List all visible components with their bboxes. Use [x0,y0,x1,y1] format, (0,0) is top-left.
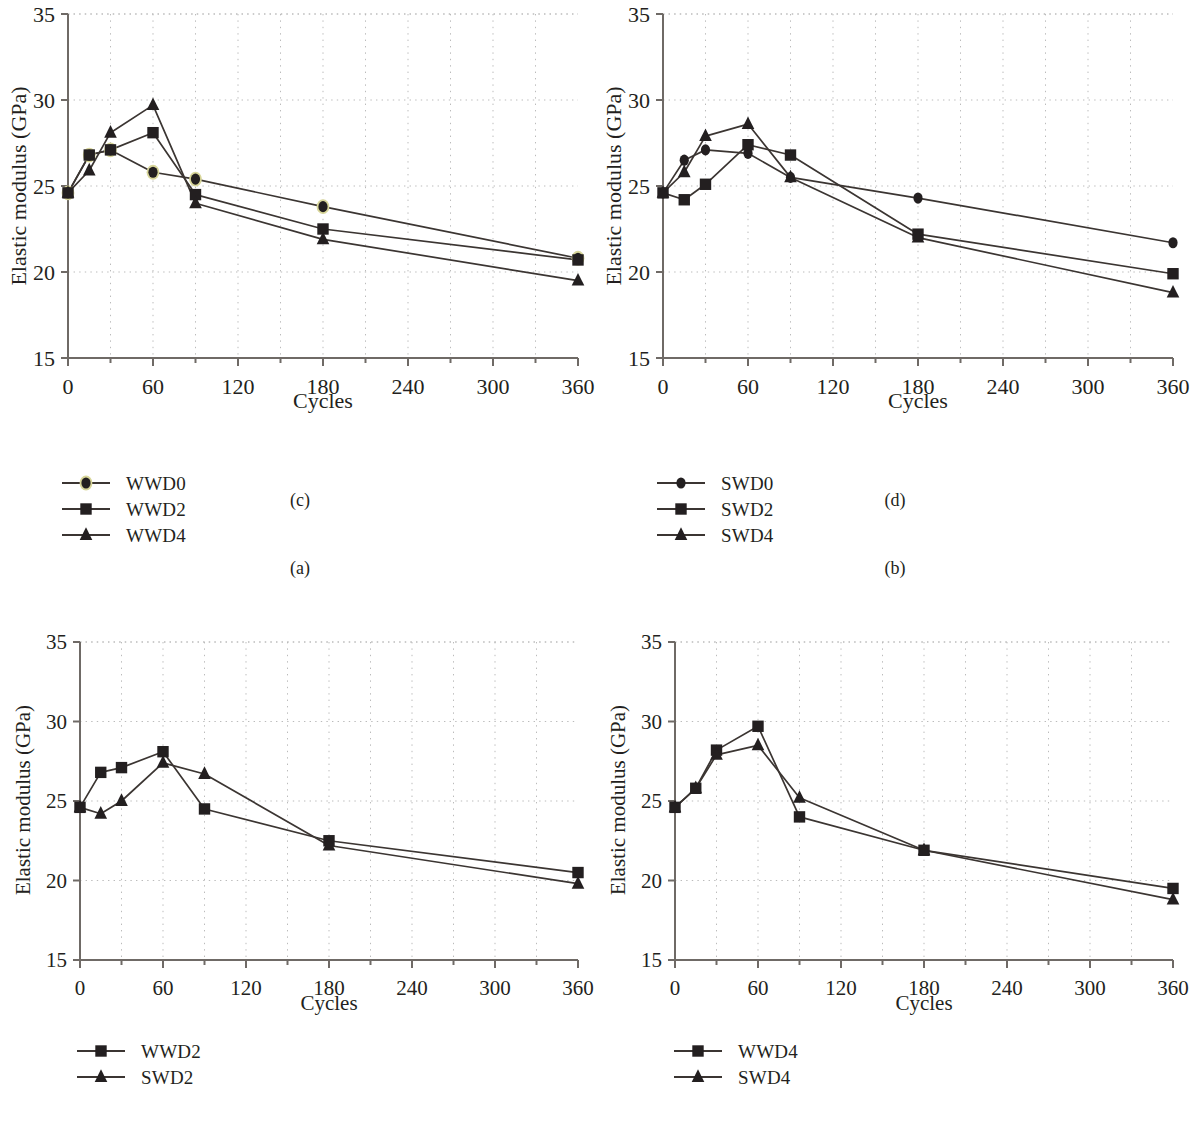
chart-c-plot: 1520253035060120180240300360CyclesElasti… [0,600,595,1030]
svg-text:30: 30 [641,710,662,734]
circle-marker-icon [655,473,707,493]
legend-label: SWD4 [738,1068,791,1087]
legend-item-swd2[interactable]: SWD2 [75,1064,201,1090]
svg-text:60: 60 [748,976,769,1000]
legend-label: SWD0 [721,474,774,493]
circle-marker-icon [60,473,112,493]
legend-label: WWD2 [126,500,186,519]
svg-text:240: 240 [396,976,428,1000]
svg-text:240: 240 [392,374,425,399]
svg-text:360: 360 [1157,374,1190,399]
svg-text:35: 35 [46,630,67,654]
square-marker-icon [75,1041,127,1061]
triangle-marker-icon [655,525,707,545]
svg-text:300: 300 [479,976,511,1000]
legend-label: WWD0 [126,474,186,493]
legend-item-wwd4[interactable]: WWD4 [672,1038,798,1064]
svg-text:0: 0 [63,374,74,399]
chart-d-legend: WWD4SWD4 [672,1038,798,1090]
svg-text:240: 240 [987,374,1020,399]
svg-text:300: 300 [1074,976,1106,1000]
square-marker-icon [655,499,707,519]
svg-text:60: 60 [737,374,759,399]
square-marker-icon [672,1041,724,1061]
svg-text:30: 30 [628,88,650,113]
svg-text:360: 360 [562,976,594,1000]
chart-c-caption: (c) [240,490,360,511]
legend-item-wwd4[interactable]: WWD4 [60,522,186,548]
legend-label: SWD2 [141,1068,194,1087]
legend-label: WWD4 [738,1042,798,1061]
figure-elastic-modulus-cycles: 1520253035060120180240300360CyclesElasti… [0,0,1190,1132]
svg-text:300: 300 [477,374,510,399]
legend-item-wwd0[interactable]: WWD0 [60,470,186,496]
legend-label: SWD2 [721,500,774,519]
svg-text:0: 0 [670,976,681,1000]
chart-a-plot: 1520253035060120180240300360CyclesElasti… [0,0,595,430]
legend-item-wwd2[interactable]: WWD2 [60,496,186,522]
svg-text:Elastic modulus (GPa): Elastic modulus (GPa) [601,86,626,285]
legend-item-swd2[interactable]: SWD2 [655,496,774,522]
triangle-marker-icon [672,1067,724,1087]
chart-a-caption: (a) [240,558,360,579]
svg-text:20: 20 [628,260,650,285]
legend-label: WWD2 [141,1042,201,1061]
legend-item-swd0[interactable]: SWD0 [655,470,774,496]
svg-text:0: 0 [658,374,669,399]
square-marker-icon [60,499,112,519]
svg-text:25: 25 [628,174,650,199]
svg-text:0: 0 [75,976,86,1000]
chart-d-svg: 1520253035060120180240300360CyclesElasti… [595,600,1190,1030]
svg-text:60: 60 [153,976,174,1000]
svg-text:30: 30 [33,88,55,113]
svg-text:360: 360 [1157,976,1189,1000]
legend-item-swd4[interactable]: SWD4 [672,1064,798,1090]
svg-text:20: 20 [46,869,67,893]
legend-label: WWD4 [126,526,186,545]
svg-text:20: 20 [33,260,55,285]
chart-b-caption: (b) [835,558,955,579]
svg-text:60: 60 [142,374,164,399]
svg-text:35: 35 [628,2,650,27]
legend-item-wwd2[interactable]: WWD2 [75,1038,201,1064]
svg-text:360: 360 [562,374,595,399]
svg-text:25: 25 [641,789,662,813]
svg-text:Elastic modulus (GPa): Elastic modulus (GPa) [606,705,630,895]
svg-text:30: 30 [46,710,67,734]
chart-c-legend: WWD2SWD2 [75,1038,201,1090]
svg-text:25: 25 [46,789,67,813]
svg-text:15: 15 [46,948,67,972]
svg-text:20: 20 [641,869,662,893]
chart-b-legend: SWD0SWD2SWD4 [655,470,774,548]
svg-text:120: 120 [817,374,850,399]
chart-a-svg: 1520253035060120180240300360CyclesElasti… [0,0,595,430]
legend-label: SWD4 [721,526,774,545]
svg-text:35: 35 [641,630,662,654]
svg-text:35: 35 [33,2,55,27]
chart-b-svg: 1520253035060120180240300360CyclesElasti… [595,0,1190,430]
svg-text:300: 300 [1072,374,1105,399]
chart-b-plot: 1520253035060120180240300360CyclesElasti… [595,0,1190,430]
chart-d-caption: (d) [835,490,955,511]
svg-text:120: 120 [222,374,255,399]
svg-text:240: 240 [991,976,1023,1000]
svg-text:Cycles: Cycles [895,991,952,1015]
svg-text:120: 120 [825,976,857,1000]
chart-a-legend: WWD0WWD2WWD4 [60,470,186,548]
legend-item-swd4[interactable]: SWD4 [655,522,774,548]
svg-text:25: 25 [33,174,55,199]
chart-d-plot: 1520253035060120180240300360CyclesElasti… [595,600,1190,1030]
svg-text:15: 15 [628,346,650,371]
svg-text:Cycles: Cycles [300,991,357,1015]
svg-text:Cycles: Cycles [888,388,948,413]
svg-text:15: 15 [641,948,662,972]
svg-text:Elastic modulus (GPa): Elastic modulus (GPa) [6,86,31,285]
chart-c-svg: 1520253035060120180240300360CyclesElasti… [0,600,595,1030]
svg-text:Cycles: Cycles [293,388,353,413]
triangle-marker-icon [60,525,112,545]
svg-text:Elastic modulus (GPa): Elastic modulus (GPa) [11,705,35,895]
svg-text:120: 120 [230,976,262,1000]
triangle-marker-icon [75,1067,127,1087]
svg-text:15: 15 [33,346,55,371]
